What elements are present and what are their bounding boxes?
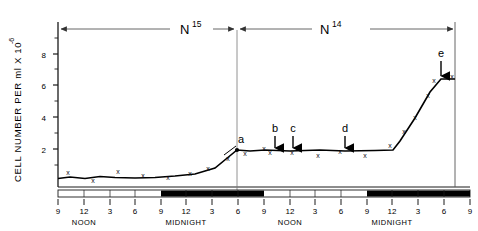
y-axis-label-exponent: -6 <box>8 38 15 44</box>
x-tick-label: 6 <box>236 207 241 216</box>
data-point-marker: x <box>426 92 430 99</box>
marker-label-a: a <box>238 133 245 145</box>
data-point-marker: x <box>188 170 192 177</box>
data-point-marker: x <box>450 73 454 80</box>
data-point-marker: x <box>116 168 120 175</box>
chart-svg: CELL NUMBER PER ml X 10 -6 8 6 4 2 <box>0 0 478 231</box>
data-point-marker: x <box>91 177 95 184</box>
x-tick-label: 6 <box>339 207 344 216</box>
figure-container: CELL NUMBER PER ml X 10 -6 8 6 4 2 <box>0 0 478 231</box>
marker-label-c: c <box>290 122 296 134</box>
data-point-marker: x <box>413 114 417 121</box>
n14-superscript: 14 <box>332 19 342 29</box>
marker-label-e: e <box>438 47 444 59</box>
y-tick-label-4: 4 <box>42 114 47 123</box>
x-tick-label: 12 <box>182 207 191 216</box>
n15-label: N <box>180 22 189 37</box>
y-tick-label-8: 8 <box>42 51 47 60</box>
data-point-marker: x <box>363 152 367 159</box>
x-tick-label: 9 <box>365 207 370 216</box>
data-point-marker: x <box>226 155 230 162</box>
period-label-noon-2: NOON <box>278 218 303 227</box>
x-tick-label: 3 <box>313 207 318 216</box>
x-tick-label: 9 <box>262 207 267 216</box>
photoperiod-dark-band <box>367 191 470 197</box>
x-tick-label: 3 <box>416 207 421 216</box>
period-label-midnight-2: MIDNIGHT <box>371 218 412 227</box>
x-tick-label: 12 <box>80 207 89 216</box>
x-tick-label: 9 <box>56 207 61 216</box>
data-point-marker: x <box>262 145 266 152</box>
x-tick-label: 9 <box>468 207 473 216</box>
x-tick-label: 3 <box>108 207 113 216</box>
y-tick-label-2: 2 <box>42 146 47 155</box>
n15-superscript: 15 <box>192 19 202 29</box>
x-tick-label: 12 <box>286 207 295 216</box>
y-axis-label: CELL NUMBER PER ml X 10 <box>12 42 23 182</box>
photoperiod-dark-band <box>161 191 264 197</box>
data-point-marker: x <box>338 148 342 155</box>
x-tick-label: 6 <box>442 207 447 216</box>
n14-label: N <box>320 22 329 37</box>
photoperiod-bar <box>58 190 470 197</box>
data-point-marker: x <box>432 77 436 84</box>
period-label-midnight-1: MIDNIGHT <box>165 218 206 227</box>
x-tick-label: 3 <box>210 207 215 216</box>
data-point-marker: x <box>402 128 406 135</box>
marker-label-b: b <box>272 122 278 134</box>
data-point-marker: x <box>290 149 294 156</box>
marker-label-d: d <box>342 122 348 134</box>
data-point-marker: x <box>206 165 210 172</box>
marker-a-point <box>235 148 239 152</box>
data-point-marker: x <box>66 169 70 176</box>
data-point-marker: x <box>388 142 392 149</box>
period-label-noon-1: NOON <box>72 218 97 227</box>
data-point-marker: x <box>141 172 145 179</box>
x-tick-label: 12 <box>388 207 397 216</box>
data-point-marker: x <box>268 149 272 156</box>
data-point-marker: x <box>316 152 320 159</box>
x-tick-label: 9 <box>159 207 164 216</box>
x-tick-label: 6 <box>133 207 138 216</box>
data-point-marker: x <box>166 174 170 181</box>
data-point-marker: x <box>243 150 247 157</box>
y-tick-label-6: 6 <box>42 82 47 91</box>
